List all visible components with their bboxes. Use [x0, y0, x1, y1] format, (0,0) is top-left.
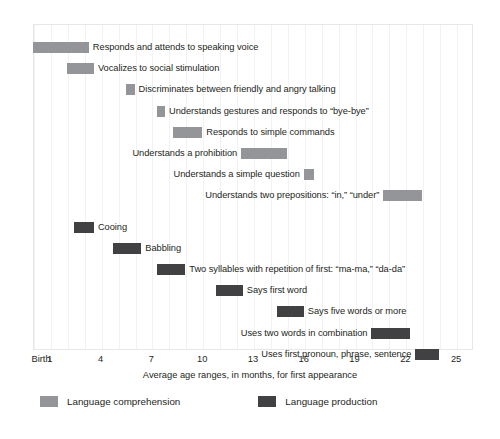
milestone-label: Understands a simple question: [174, 166, 300, 183]
x-axis-title: Average age ranges, in months, for first…: [0, 370, 500, 380]
table-row: Responds to simple commands: [33, 122, 473, 144]
table-row: Understands two prepositions: “in,” “und…: [33, 185, 473, 207]
milestone-bar: [157, 106, 165, 117]
bar-rows: Responds and attends to speaking voiceVo…: [33, 24, 473, 350]
legend-label-production: Language production: [285, 396, 377, 407]
milestone-label: Two syllables with repetition of first: …: [189, 261, 405, 278]
x-tick-label: 7: [149, 352, 154, 366]
milestone-bar: [67, 63, 94, 74]
milestone-label: Responds to simple commands: [206, 124, 334, 141]
milestone-label: Understands two prepositions: “in,” “und…: [205, 187, 379, 204]
table-row: Understands gestures and responds to “by…: [33, 101, 473, 123]
table-row: Says first word: [33, 280, 473, 302]
milestone-label: Babbling: [145, 240, 181, 257]
milestone-bar: [371, 328, 410, 339]
milestone-bar: [277, 306, 304, 317]
milestone-label: Vocalizes to social stimulation: [98, 60, 219, 77]
x-tick-label: 19: [349, 352, 359, 366]
x-tick-label: 22: [400, 352, 410, 366]
milestone-bar: [216, 285, 243, 296]
x-tick-label: 4: [98, 352, 103, 366]
legend-label-comprehension: Language comprehension: [67, 396, 180, 407]
milestone-label: Says five words or more: [308, 303, 407, 320]
milestone-bar: [126, 84, 134, 95]
milestone-label: Cooing: [98, 219, 127, 236]
table-row: Two syllables with repetition of first: …: [33, 259, 473, 281]
milestone-label: Says first word: [247, 282, 307, 299]
table-row: Uses two words in combination: [33, 323, 473, 345]
language-milestones-chart: Responds and attends to speaking voiceVo…: [0, 0, 500, 439]
table-row: Cooing: [33, 217, 473, 239]
legend-swatch-production: [258, 396, 276, 407]
legend: Language comprehension Language producti…: [40, 396, 377, 407]
x-tick-label: 10: [197, 352, 207, 366]
milestone-bar: [157, 264, 186, 275]
legend-item-comprehension: Language comprehension: [40, 396, 180, 407]
table-row: Discriminates between friendly and angry…: [33, 79, 473, 101]
table-row: Understands a simple question: [33, 164, 473, 186]
milestone-label: Uses two words in combination: [241, 325, 368, 342]
table-row: Responds and attends to speaking voice: [33, 37, 473, 59]
table-row: Understands a prohibition: [33, 143, 473, 165]
milestone-bar: [173, 127, 202, 138]
milestone-bar: [241, 148, 287, 159]
milestone-label: Understands gestures and responds to “by…: [169, 103, 369, 120]
table-row: Says five words or more: [33, 301, 473, 323]
milestone-label: Understands a prohibition: [132, 145, 237, 162]
milestone-label: Responds and attends to speaking voice: [93, 39, 259, 56]
x-tick-label: 25: [451, 352, 461, 366]
table-row: Vocalizes to social stimulation: [33, 58, 473, 80]
x-tick-label: 13: [248, 352, 258, 366]
legend-swatch-comprehension: [40, 396, 58, 407]
table-row: Babbling: [33, 238, 473, 260]
milestone-bar: [383, 190, 422, 201]
milestone-bar: [74, 222, 94, 233]
x-axis: Birth147101316192225: [0, 352, 500, 372]
x-tick-label: 16: [299, 352, 309, 366]
milestone-bar: [33, 42, 89, 53]
legend-item-production: Language production: [258, 396, 377, 407]
milestone-bar: [304, 169, 314, 180]
x-tick-label: 1: [47, 352, 52, 366]
milestone-label: Discriminates between friendly and angry…: [139, 81, 336, 98]
milestone-bar: [113, 243, 142, 254]
